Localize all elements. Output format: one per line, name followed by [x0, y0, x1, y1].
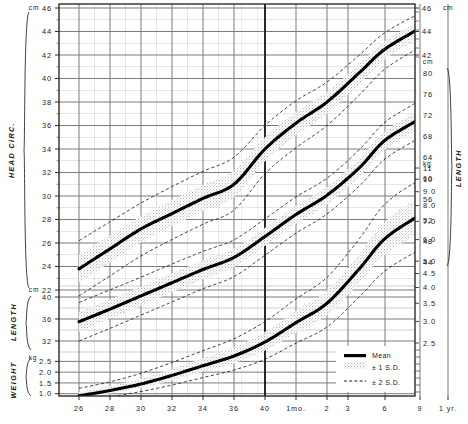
ytick-headcirc: 36 [42, 121, 52, 130]
ytick-headcirc: 26 [42, 239, 52, 248]
ytick-headcirc: 44 [42, 27, 52, 36]
ytick-right-weight: 9.0 [423, 187, 436, 196]
growth-chart-canvas: 46444240383634323028262422cmHEAD CIRC.40… [0, 0, 468, 424]
ytick-right-headcirc: 44 [422, 27, 432, 36]
ytick-right-weight: 4.0 [423, 283, 436, 292]
ytick-right-length: 76 [423, 90, 433, 99]
ytick-headcirc: 34 [42, 145, 52, 154]
axis-title-length-left: LENGTH [9, 303, 18, 341]
ytick-headcirc: 32 [42, 168, 52, 177]
ytick-right-weight: 10 [423, 175, 433, 184]
xtick-label: 1 yr. [439, 404, 457, 413]
axis-title-head-circ: HEAD CIRC. [7, 122, 16, 178]
legend-swatch-mean [344, 354, 366, 357]
ytick-right-headcirc: 46 [422, 4, 432, 13]
legend-label-mean: Mean [372, 352, 391, 359]
ytick-headcirc: 28 [42, 215, 52, 224]
xtick-label: 6 [383, 404, 388, 413]
ytick-right-length: 80 [423, 69, 433, 78]
xtick-label: 30 [136, 404, 146, 413]
unit-length-left-cm: cm [29, 286, 39, 293]
xtick-label: 9 [418, 404, 423, 413]
axis-title-length-right: LENGTH [454, 149, 463, 187]
xtick-label: 36 [229, 404, 239, 413]
axis-title-weight-left: WEIGHT [9, 361, 18, 398]
ytick-right-weight: 3.0 [423, 317, 436, 326]
ytick-headcirc: 38 [42, 98, 52, 107]
ytick-right-weight: 8.0 [423, 201, 436, 210]
growth-chart: 46444240383634323028262422cmHEAD CIRC.40… [0, 0, 468, 424]
xtick-label: 3 [346, 404, 351, 413]
ytick-length: 36 [42, 315, 52, 324]
ytick-length: 40 [42, 293, 52, 302]
unit-weight-right-kg: kg [423, 160, 432, 168]
legend-swatch-sd1 [344, 362, 366, 369]
ytick-weight: 1.5 [39, 379, 52, 388]
chart-legend: Mean ± 1 S.D. ± 2 S.D. [336, 346, 414, 392]
xtick-label: 1mo. [286, 404, 306, 413]
xtick-label: 2 [325, 404, 330, 413]
xtick-label: 26 [74, 404, 84, 413]
unit-length-right-cm: cm [423, 58, 433, 65]
ytick-right-length: 68 [423, 132, 433, 141]
ytick-headcirc: 46 [42, 4, 52, 13]
xtick-label: 34 [198, 404, 208, 413]
unit-headcirc-right-cm: cm [443, 4, 453, 11]
ytick-right-weight: 5.0 [423, 257, 436, 266]
ytick-headcirc: 40 [42, 74, 52, 83]
ytick-weight: 2.0 [39, 368, 52, 377]
legend-label-sd1: ± 1 S.D. [372, 364, 400, 371]
xtick-label: 40 [260, 404, 270, 413]
ytick-weight: 1.0 [39, 389, 52, 398]
xtick-label: 32 [167, 404, 177, 413]
ytick-weight: 2.5 [39, 357, 52, 366]
ytick-headcirc: 30 [42, 192, 52, 201]
ytick-headcirc: 24 [42, 262, 52, 271]
ytick-headcirc: 42 [42, 51, 52, 60]
ytick-right-weight: 7.0 [423, 217, 436, 226]
unit-weight-left-kg: kg [29, 354, 38, 362]
ytick-length: 32 [42, 337, 52, 346]
legend-label-sd2: ± 2 S.D. [372, 379, 400, 386]
ytick-right-weight: 3.5 [423, 299, 436, 308]
ytick-right-weight: 4.5 [423, 269, 436, 278]
ytick-right-length: 72 [423, 111, 433, 120]
xtick-label: 28 [105, 404, 115, 413]
ytick-right-weight: 6.0 [423, 235, 436, 244]
unit-headcirc-left-cm: cm [29, 4, 39, 11]
ytick-right-weight: 2.5 [423, 339, 436, 348]
